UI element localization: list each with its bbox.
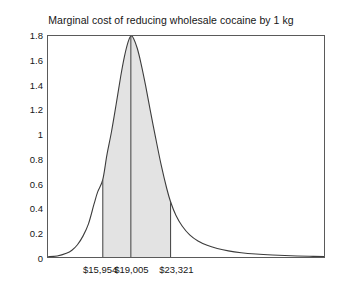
density-curve-plot (48, 36, 324, 257)
x-tick-label: $23,321 (159, 264, 193, 275)
x-tick-label: $15,954 (83, 264, 117, 275)
y-tick-label: 1.8 (3, 30, 43, 41)
y-tick-label: 0 (3, 253, 43, 264)
shaded-region (103, 36, 171, 257)
figure-canvas: Marginal cost of reducing wholesale coca… (0, 0, 342, 294)
y-tick-label: 1.6 (3, 54, 43, 65)
y-tick-label: 0.6 (3, 178, 43, 189)
y-tick-label: 1.4 (3, 79, 43, 90)
plot-area (47, 35, 325, 258)
y-tick-label: 1.2 (3, 104, 43, 115)
y-tick-label: 1 (3, 129, 43, 140)
y-tick-label: 0.4 (3, 203, 43, 214)
y-axis-tick-labels: 00.20.40.60.811.21.41.61.8 (0, 0, 43, 294)
density-curve (48, 36, 324, 257)
chart-title: Marginal cost of reducing wholesale coca… (0, 14, 342, 26)
y-tick-label: 0.8 (3, 153, 43, 164)
x-tick-label: $19,005 (114, 264, 148, 275)
x-axis-tick-labels: $15,954$19,005$23,321 (0, 264, 342, 280)
y-tick-label: 0.2 (3, 228, 43, 239)
